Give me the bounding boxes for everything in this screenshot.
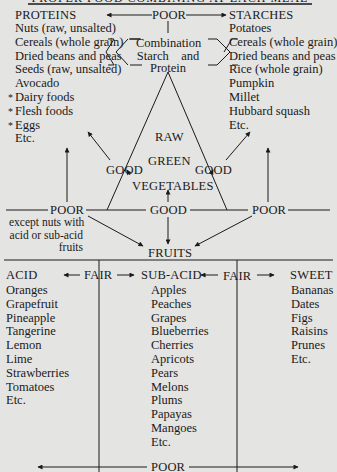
list-item-starred: Flesh foods [15,105,123,119]
combination-starch-protein: Combination Starch and Protein [136,37,200,75]
list-item: Apples [151,284,209,298]
list-item: Seeds (raw, unsalted) [15,63,123,77]
list-item-starred: Dairy foods [15,91,123,105]
list-item: Grapefruit [6,298,69,312]
list-item: Etc. [15,132,123,146]
fair-label-right: FAIR [223,269,251,284]
list-item: Nuts (raw, unsalted) [15,22,123,36]
list-item: Bananas [291,284,333,298]
fruits-label: FRUITS [148,246,192,261]
list-item: Potatoes [229,22,337,36]
list-item: Dates [291,298,333,312]
poor-label-bottom: POOR [151,460,185,472]
list-item: Mangoes [151,422,209,436]
starches-list: Potatoes Cereals (whole grain) Dried bea… [229,22,337,132]
list-item: Pears [151,367,209,381]
list-item: Papayas [151,408,209,422]
list-item: Figs [291,312,333,326]
combination-line: Protein [136,62,200,75]
diagram-title-partial: PROPER FOOD COMBINING AT EACH MEAL [30,0,310,3]
list-item: Grapes [151,312,209,326]
good-label-center: GOOD [150,203,187,218]
good-label-right: GOOD [195,163,232,178]
note-line: except nuts with [9,216,83,229]
list-item: Etc. [6,394,69,408]
poor-label-right: POOR [252,203,286,218]
list-item: Strawberries [6,367,69,381]
acid-list: Oranges Grapefruit Pineapple Tangerine L… [6,284,69,408]
list-item: Millet [229,91,337,105]
list-item: Prunes [291,339,333,353]
list-item: Blueberries [151,325,209,339]
list-item: Etc. [151,436,209,450]
list-item: Tomatoes [6,381,69,395]
proteins-list: Nuts (raw, unsalted) Cereals (whole grai… [15,22,123,146]
note-line: acid or sub-acid [9,229,83,242]
list-item-starred: Eggs [15,119,123,133]
poor-left-note: except nuts with acid or sub-acid fruits [9,216,83,254]
sub-acid-list: Apples Peaches Grapes Blueberries Cherri… [151,284,209,450]
sub-acid-heading: SUB-ACID [141,268,202,283]
list-item: Etc. [229,119,337,133]
list-item: Apricots [151,353,209,367]
list-item: Oranges [6,284,69,298]
sweet-heading: SWEET [290,268,333,283]
sweet-list: Bananas Dates Figs Raisins Prunes Etc. [291,284,333,367]
list-item: Etc. [291,353,333,367]
list-item: Cereals (whole grain) [229,36,337,50]
list-item: Lemon [6,339,69,353]
list-item: Plums [151,394,209,408]
acid-heading: ACID [6,268,37,283]
list-item: Rice (whole grain) [229,63,337,77]
combination-line: Combination [136,37,200,50]
list-item: Cereals (whole grain) [15,36,123,50]
note-line: fruits [9,241,83,254]
list-item: Hubbard squash [229,105,337,119]
list-item: Melons [151,381,209,395]
list-item: Raisins [291,325,333,339]
poor-label-top: POOR [152,8,186,23]
list-item: Tangerine [6,325,69,339]
list-item: Avocado [15,77,123,91]
list-item: Peaches [151,298,209,312]
list-item: Cherries [151,339,209,353]
triangle-label-green: GREEN [148,154,191,169]
fair-label-left: FAIR [84,268,112,283]
list-item: Pumpkin [229,77,337,91]
good-label-left: GOOD [106,163,143,178]
list-item: Pineapple [6,312,69,326]
list-item: Dried beans and peas [15,50,123,64]
triangle-label-vegetables: VEGETABLES [132,179,214,194]
list-item: Dried beans and peas [229,50,337,64]
triangle-label-raw: RAW [155,130,184,145]
list-item: Lime [6,353,69,367]
